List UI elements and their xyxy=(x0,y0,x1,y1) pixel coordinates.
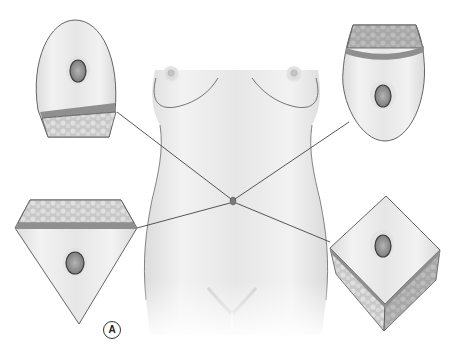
umbilicus-top-right xyxy=(375,85,391,107)
inset-bottom-right xyxy=(330,196,440,331)
umbilicus-bottom-right xyxy=(375,235,391,257)
inset-top-left xyxy=(36,20,116,137)
panel-label: A xyxy=(103,321,121,339)
umbilicus-bottom-left xyxy=(66,252,84,274)
inset-bottom-left xyxy=(15,200,137,324)
inset-top-right xyxy=(343,25,425,141)
torso xyxy=(140,40,330,340)
figure: A xyxy=(0,0,450,349)
umbilicus xyxy=(230,197,236,205)
umbilicus-top-left xyxy=(70,60,86,82)
illustration xyxy=(0,0,450,349)
